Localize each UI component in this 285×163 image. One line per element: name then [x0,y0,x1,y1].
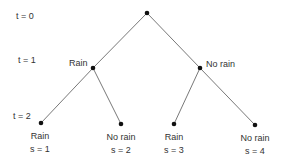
leaf-node-s2 [119,122,124,127]
event-tree-diagram: t = 0 t = 1 t = 2 Rain No rain Rain s = … [0,0,285,163]
leaf-node-s1 [39,121,44,126]
leaf-node-s4 [253,123,258,128]
edge-rain-s2 [93,68,121,124]
leaf-label-2: No rain [106,132,135,142]
node-norain [198,66,203,71]
edge-norain-s4 [200,68,255,125]
leaf-label-1: Rain [31,131,50,141]
leaf-label-3: Rain [165,132,184,142]
edge-rain-s1 [41,68,93,123]
edge-root-rain [93,13,147,68]
edge-root-norain [147,13,200,68]
edge-norain-s3 [174,68,200,124]
branch-label-norain: No rain [206,59,235,69]
leaf-state-1: s = 1 [30,144,50,154]
leaf-state-4: s = 4 [245,146,265,156]
node-rain [91,66,96,71]
time-label-t1: t = 1 [18,55,36,65]
root-node [145,11,150,16]
leaf-node-s3 [172,122,177,127]
leaf-state-2: s = 2 [111,145,131,155]
branch-label-rain: Rain [69,58,88,68]
leaf-label-4: No rain [240,133,269,143]
time-label-t0: t = 0 [16,11,34,21]
time-label-t2: t = 2 [13,111,31,121]
leaf-state-3: s = 3 [164,145,184,155]
